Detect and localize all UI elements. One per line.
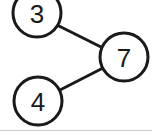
node-7-label: 7 — [117, 43, 131, 73]
edge-group — [59, 26, 103, 90]
edge-node3-node7 — [59, 26, 103, 48]
diagram-canvas: 3 7 4 — [0, 0, 152, 134]
edge-node4-node7 — [60, 68, 103, 90]
node-graph: 3 7 4 — [0, 0, 152, 134]
node-4-label: 4 — [31, 87, 45, 117]
node-4[interactable]: 4 — [14, 77, 62, 125]
node-3[interactable]: 3 — [13, 0, 61, 37]
node-3-label: 3 — [30, 0, 44, 29]
node-7[interactable]: 7 — [100, 33, 148, 81]
